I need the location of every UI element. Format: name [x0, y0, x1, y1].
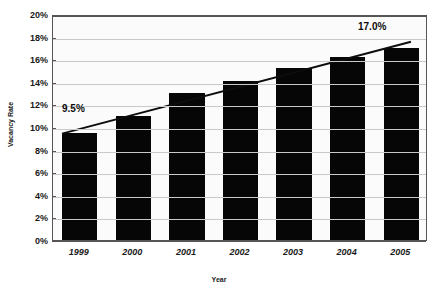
y-axis-title: Vacancy Rate — [7, 85, 14, 165]
plot-inner — [53, 16, 426, 240]
gridline — [53, 106, 426, 107]
y-axis-tick-mark — [52, 151, 56, 152]
bar — [62, 133, 97, 240]
x-axis-tick-label: 1999 — [52, 248, 106, 257]
gridline — [53, 219, 426, 220]
gridline — [53, 129, 426, 130]
gridline — [53, 197, 426, 198]
y-axis-tick-mark — [52, 105, 56, 106]
y-axis-tick-labels: 0%2%4%6%8%10%12%14%16%18%20% — [14, 15, 48, 241]
x-axis-tick-label: 2002 — [213, 248, 267, 257]
gridline — [53, 241, 426, 242]
bar — [223, 81, 258, 240]
y-axis-tick-label: 10% — [18, 124, 48, 133]
data-label-start: 9.5% — [62, 104, 85, 114]
bar — [116, 116, 151, 240]
gridline — [53, 39, 426, 40]
y-axis-tick-mark — [52, 83, 56, 84]
y-axis-tick-mark — [52, 15, 56, 16]
bar — [384, 48, 419, 240]
y-axis-tick-label: 0% — [18, 237, 48, 246]
x-axis-tick-label: 2000 — [106, 248, 160, 257]
plot-area — [52, 15, 427, 241]
y-axis-tick-label: 6% — [18, 169, 48, 178]
x-axis-tick-label: 2005 — [373, 248, 427, 257]
gridline — [53, 152, 426, 153]
gridline — [53, 16, 426, 17]
y-axis-tick-label: 14% — [18, 78, 48, 87]
y-axis-tick-mark — [52, 128, 56, 129]
y-axis-tick-label: 8% — [18, 146, 48, 155]
y-axis-tick-label: 18% — [18, 33, 48, 42]
y-axis-tick-mark — [52, 38, 56, 39]
y-axis-tick-label: 4% — [18, 191, 48, 200]
x-axis-title: Year — [0, 276, 438, 283]
y-axis-tick-label: 12% — [18, 101, 48, 110]
y-axis-tick-label: 2% — [18, 214, 48, 223]
y-axis-tick-mark — [52, 218, 56, 219]
gridline — [53, 61, 426, 62]
x-axis-tick-label: 2004 — [320, 248, 374, 257]
y-axis-tick-label: 20% — [18, 11, 48, 20]
vacancy-rate-bar-chart: 0%2%4%6%8%10%12%14%16%18%20% 19992000200… — [0, 0, 438, 293]
y-axis-tick-mark — [52, 241, 56, 242]
gridline — [53, 174, 426, 175]
y-axis-tick-mark — [52, 60, 56, 61]
y-axis-tick-label: 16% — [18, 56, 48, 65]
x-axis-tick-label: 2001 — [159, 248, 213, 257]
bar — [169, 93, 204, 240]
y-axis-tick-mark — [52, 173, 56, 174]
x-axis-tick-label: 2003 — [266, 248, 320, 257]
y-axis-tick-mark — [52, 196, 56, 197]
gridline — [53, 84, 426, 85]
data-label-end: 17.0% — [358, 22, 386, 32]
bar — [276, 68, 311, 240]
